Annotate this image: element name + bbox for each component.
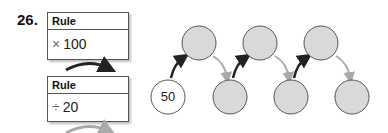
divide-arrow [213, 56, 227, 78]
sequence-circle [243, 26, 277, 60]
divide-arrow [336, 56, 350, 78]
multiply-arrow [171, 58, 183, 78]
multiply-arrow-legend [66, 63, 108, 70]
start-value: 50 [151, 89, 185, 104]
sequence-circle [274, 80, 308, 114]
sequence-circle [213, 80, 247, 114]
sequence-circle [304, 26, 338, 60]
divide-arrow-legend [66, 126, 108, 133]
sequence-circle [335, 80, 369, 114]
multiply-arrow [294, 58, 306, 78]
sequence-circle [182, 26, 216, 60]
multiply-arrow [233, 58, 245, 78]
divide-arrow [275, 56, 289, 78]
sequence-diagram [0, 0, 388, 133]
